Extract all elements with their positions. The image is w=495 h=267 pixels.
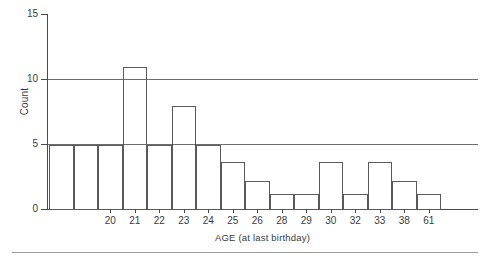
y-tick-label-5: 5 [32, 138, 38, 149]
x-tick-mark [135, 209, 136, 213]
bar [294, 194, 319, 210]
bar [49, 145, 74, 210]
bar [147, 145, 172, 210]
x-tick-mark [355, 209, 356, 213]
footer-rule [12, 252, 478, 253]
bar [417, 194, 442, 210]
y-tick-label-10: 10 [27, 73, 38, 84]
histogram-figure: Count 0 5 10 15 202122232425262829303233… [0, 0, 495, 267]
bar [123, 67, 148, 210]
y-tick-label-0: 0 [32, 203, 38, 214]
bar-series [47, 14, 478, 210]
bar [172, 106, 197, 210]
bar [368, 162, 393, 210]
bar [98, 145, 123, 210]
bar [196, 145, 221, 210]
bar [343, 194, 368, 210]
x-tick-mark [208, 209, 209, 213]
x-tick-mark [159, 209, 160, 213]
bar [392, 181, 417, 210]
bar [270, 194, 295, 210]
bar [221, 162, 246, 210]
x-tick-mark [404, 209, 405, 213]
x-tick-mark [257, 209, 258, 213]
x-tick-mark [110, 209, 111, 213]
x-tick-mark [233, 209, 234, 213]
y-tick-label-15: 15 [27, 8, 38, 19]
bar [74, 145, 99, 210]
x-tick-mark [331, 209, 332, 213]
x-tick-mark [306, 209, 307, 213]
x-tick-mark [282, 209, 283, 213]
bar [245, 181, 270, 210]
x-tick-mark [184, 209, 185, 213]
x-tick-mark [429, 209, 430, 213]
x-tick-mark [380, 209, 381, 213]
x-tick-label: 61 [415, 215, 443, 227]
x-axis-title: AGE (at last birthday) [47, 232, 478, 243]
bar [319, 162, 344, 210]
